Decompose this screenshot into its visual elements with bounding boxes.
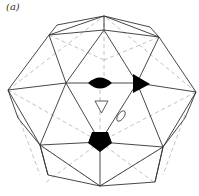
inversion-three-fold-icon <box>95 101 108 113</box>
polyhedron-diagram <box>0 0 199 196</box>
five-fold-axis-icon <box>88 132 112 152</box>
two-fold-axis-icon <box>88 78 112 89</box>
three-fold-axis-icon <box>133 74 150 93</box>
two-fold-open-icon <box>115 109 127 122</box>
